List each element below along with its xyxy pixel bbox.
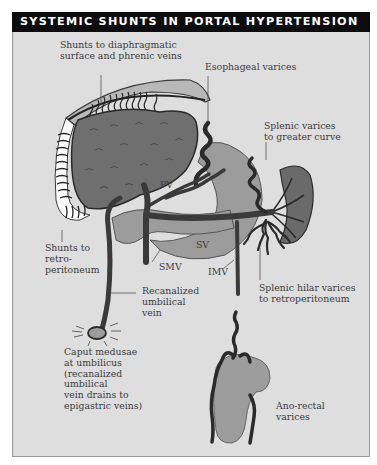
label-smv: SMV xyxy=(159,262,182,273)
spleen xyxy=(280,166,313,244)
label-imv: IMV xyxy=(208,267,228,278)
label-recanalized-umbilical-vein: Recanalized umbilical vein xyxy=(142,286,199,318)
label-sv: SV xyxy=(196,240,209,251)
label-caput-medusae: Caput medusae at umbilicus (recanalized … xyxy=(64,347,142,412)
label-esophageal-varices: Esophageal varices xyxy=(205,62,296,73)
label-anorectal-varices: Ano-rectal varices xyxy=(276,401,325,423)
caput-medusae xyxy=(72,323,121,346)
portal-hypertension-illustration xyxy=(0,0,377,465)
rectum xyxy=(214,354,270,443)
label-diaphragmatic-shunts: Shunts to diaphragmatic surface and phre… xyxy=(60,40,182,62)
label-pv: PV xyxy=(160,180,173,191)
label-retroperitoneum: Shunts to retro- peritoneum xyxy=(45,243,100,275)
label-splenic-greater-curve: Splenic varices to greater curve xyxy=(264,121,341,143)
label-splenic-hilar-varices: Splenic hilar varices to retroperitoneum xyxy=(259,283,356,305)
